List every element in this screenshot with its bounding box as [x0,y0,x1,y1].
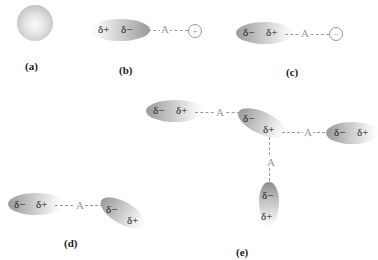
caption-e: (e) [236,246,248,258]
delta-plus-label: δ+ [176,105,187,116]
delta-minus-label: δ− [262,190,273,201]
delta-minus-label: δ− [121,24,132,35]
caption-a: (a) [25,60,38,72]
delta-plus-label: δ+ [261,211,272,222]
atom-a-label: A [160,24,170,35]
delta-minus-label: δ− [334,127,345,138]
delta-minus-label: δ− [14,199,25,210]
delta-plus-label: δ+ [127,215,138,226]
delta-plus-label: δ+ [98,24,109,35]
delta-plus-label: δ+ [36,199,47,210]
caption-d: (d) [64,237,77,249]
delta-minus-label: δ− [153,105,164,116]
caption-b: (b) [119,64,132,76]
nonpolar-sphere [17,5,53,41]
delta-minus-label: δ− [243,27,254,38]
delta-minus-label: δ− [243,113,254,124]
atom-a-label: A [266,157,276,168]
delta-plus-label: δ+ [263,124,274,135]
atom-a-label: A [75,200,85,211]
dipole-molecule-d2 [96,191,150,235]
atom-a-label: A [303,127,313,138]
atom-a-label: A [300,28,310,39]
caption-c: (c) [286,66,298,78]
cation-icon: + [188,24,202,38]
atom-a-label: A [215,107,225,118]
delta-plus-label: δ+ [357,127,368,138]
delta-plus-label: δ+ [266,27,277,38]
delta-minus-label: δ− [106,204,117,215]
anion-icon: − [329,27,343,41]
